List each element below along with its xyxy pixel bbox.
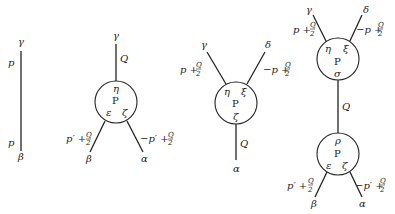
momentum-upper-left: p + bbox=[293, 24, 311, 35]
svg-text:Q: Q bbox=[285, 61, 291, 69]
label-gamma: γ bbox=[18, 36, 24, 47]
svg-text:Q: Q bbox=[308, 177, 314, 185]
momentum-left: p′ + bbox=[66, 133, 86, 144]
upper-blob-label: P bbox=[334, 56, 341, 67]
vertex-one-to-two-diagram: γ Q η P ε ζ β α p′ + Q 2 −p′ + Q 2 bbox=[66, 30, 174, 164]
momentum-top: p bbox=[8, 57, 15, 68]
svg-text:2: 2 bbox=[309, 30, 315, 38]
upper-blob-index-left: η bbox=[325, 43, 331, 54]
svg-text:2: 2 bbox=[307, 186, 313, 194]
blob-label: P bbox=[232, 98, 239, 109]
momentum-q: Q bbox=[120, 53, 128, 64]
label-gamma: γ bbox=[201, 39, 207, 50]
label-alpha: α bbox=[233, 163, 240, 174]
propagator-diagram: γ β p p bbox=[8, 36, 24, 162]
momentum-lower-left: p′ + bbox=[287, 180, 307, 191]
left-leg bbox=[207, 52, 226, 84]
label-delta: δ bbox=[363, 4, 369, 15]
momentum-bottom: p bbox=[8, 137, 15, 148]
blob-index-right: ξ bbox=[241, 86, 247, 97]
upper-blob-index-right: ξ bbox=[343, 43, 349, 54]
label-alpha: α bbox=[141, 153, 148, 164]
svg-text:Q: Q bbox=[168, 131, 174, 139]
svg-text:2: 2 bbox=[167, 139, 173, 147]
label-beta: β bbox=[310, 198, 317, 209]
lower-blob-index-right: ζ bbox=[342, 160, 348, 171]
svg-text:2: 2 bbox=[195, 70, 201, 78]
lower-left-leg bbox=[315, 172, 327, 197]
svg-text:2: 2 bbox=[379, 186, 385, 194]
two-vertex-chain-diagram: γ δ p + Q 2 −p + Q 2 η ξ P σ Q ρ P ε ζ p… bbox=[287, 4, 386, 209]
label-alpha: α bbox=[359, 198, 366, 209]
label-gamma: γ bbox=[306, 4, 312, 15]
label-gamma: γ bbox=[113, 30, 119, 41]
blob-index-left: η bbox=[224, 86, 230, 97]
svg-text:Q: Q bbox=[380, 177, 386, 185]
svg-text:2: 2 bbox=[85, 139, 91, 147]
svg-text:2: 2 bbox=[377, 30, 383, 38]
label-delta: δ bbox=[265, 39, 271, 50]
blob-label: P bbox=[112, 95, 119, 106]
svg-text:Q: Q bbox=[378, 21, 384, 29]
vertex-two-to-one-diagram: γ δ p + Q 2 −p + Q 2 η ξ P ζ Q α bbox=[180, 39, 291, 174]
lower-blob-index-top: ρ bbox=[334, 135, 341, 146]
upper-left-leg bbox=[313, 15, 327, 43]
svg-text:Q: Q bbox=[86, 131, 92, 139]
blob-index-right: ζ bbox=[122, 107, 128, 118]
lower-blob-label: P bbox=[334, 148, 341, 159]
blob-index-left: ε bbox=[106, 107, 111, 118]
lower-blob-index-left: ε bbox=[326, 160, 331, 171]
svg-text:Q: Q bbox=[310, 21, 316, 29]
feynman-diagrams: γ β p p γ Q η P ε ζ β α p′ + Q 2 −p′ + Q… bbox=[0, 0, 395, 214]
svg-text:2: 2 bbox=[284, 70, 290, 78]
left-leg bbox=[90, 121, 105, 152]
blob-index-bottom: ζ bbox=[233, 111, 239, 122]
label-beta: β bbox=[85, 153, 92, 164]
svg-text:Q: Q bbox=[196, 61, 202, 69]
momentum-q: Q bbox=[240, 138, 248, 149]
blob-index-top: η bbox=[113, 83, 119, 94]
label-beta: β bbox=[17, 151, 24, 162]
momentum-right: −p′ + bbox=[140, 133, 169, 144]
momentum-q: Q bbox=[342, 101, 350, 112]
upper-blob-index-bottom: σ bbox=[334, 68, 342, 79]
